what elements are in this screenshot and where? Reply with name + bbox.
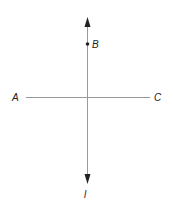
arrow-up-icon: [85, 17, 91, 27]
diagram-canvas: B A C l: [0, 0, 173, 209]
label-a: A: [11, 92, 19, 103]
label-l: l: [84, 189, 87, 200]
label-b: B: [92, 39, 99, 50]
arrow-down-icon: [85, 174, 91, 184]
point-b: [86, 42, 90, 46]
label-c: C: [154, 92, 162, 103]
